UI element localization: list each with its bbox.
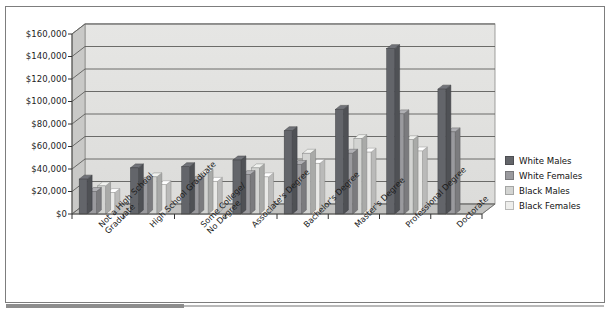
legend-item-label: Black Females — [519, 201, 581, 211]
y-axis-tick-label: $20,000 — [5, 186, 67, 196]
legend-item[interactable]: White Males — [505, 154, 607, 167]
y-axis-tick-label: $60,000 — [5, 141, 67, 151]
legend-swatch-icon — [505, 156, 514, 165]
legend-swatch-icon — [505, 171, 514, 180]
y-axis-tick-label: $80,000 — [5, 119, 67, 129]
legend-swatch-icon — [505, 186, 514, 195]
legend-swatch-icon — [505, 201, 514, 210]
bottom-rule — [184, 305, 604, 307]
y-axis-tick-label: $160,000 — [5, 29, 67, 39]
legend-item[interactable]: Black Males — [505, 184, 607, 197]
y-axis-tick-label: $140,000 — [5, 51, 67, 61]
y-axis-tick-label: $120,000 — [5, 74, 67, 84]
legend-item[interactable]: Black Females — [505, 199, 607, 212]
bar — [79, 175, 92, 214]
chart-screenshot: $0$20,000$40,000$60,000$80,000$100,000$1… — [0, 0, 612, 318]
legend-item[interactable]: White Females — [505, 169, 607, 182]
y-axis-tick-labels: $0$20,000$40,000$60,000$80,000$100,000$1… — [0, 0, 67, 318]
legend-item-label: White Females — [519, 171, 582, 181]
chart-legend: White MalesWhite FemalesBlack MalesBlack… — [505, 154, 607, 214]
y-axis-tick-label: $0 — [5, 209, 67, 219]
legend-item-label: Black Males — [519, 186, 570, 196]
y-axis-tick-label: $40,000 — [5, 164, 67, 174]
legend-item-label: White Males — [519, 156, 572, 166]
bar — [284, 127, 297, 214]
bottom-accent-bar — [6, 304, 184, 308]
y-axis-tick-label: $100,000 — [5, 96, 67, 106]
